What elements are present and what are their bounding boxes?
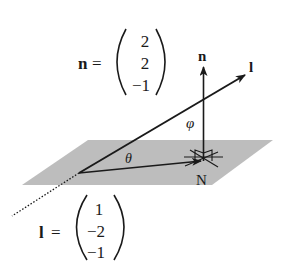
left-paren bbox=[77, 195, 88, 260]
angle-theta-label: θ bbox=[125, 151, 132, 166]
vector-n-equation: n = 2 2 −1 bbox=[78, 29, 165, 95]
vector-n-component-3: −1 bbox=[132, 76, 150, 95]
foot-point-label: N bbox=[196, 172, 207, 188]
vector-l-name: l bbox=[39, 223, 44, 242]
line-plane-angle-diagram: n l φ θ N n = 2 2 −1 l = 1 −2 −1 bbox=[0, 0, 287, 262]
right-paren bbox=[114, 195, 124, 260]
vector-n-component-1: 2 bbox=[141, 32, 150, 51]
vector-l-equation: l = 1 −2 −1 bbox=[39, 195, 124, 262]
plane bbox=[22, 140, 273, 185]
angle-phi-label: φ bbox=[186, 115, 194, 131]
vector-n-name: n bbox=[78, 54, 88, 73]
vector-n-equals: = bbox=[92, 54, 102, 73]
vector-l-component-2: −2 bbox=[87, 222, 105, 241]
vector-l-component-3: −1 bbox=[87, 243, 105, 262]
vector-l-equals: = bbox=[51, 223, 61, 242]
vector-n-component-2: 2 bbox=[141, 54, 150, 73]
normal-label: n bbox=[198, 48, 207, 64]
line-label: l bbox=[249, 59, 253, 75]
right-paren bbox=[156, 29, 165, 95]
left-paren bbox=[117, 29, 126, 95]
vector-l-component-1: 1 bbox=[95, 200, 104, 219]
